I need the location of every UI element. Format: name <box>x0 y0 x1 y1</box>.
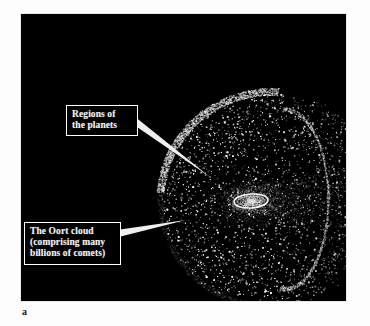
callout-oort-line-3: billions of comets) <box>30 248 115 259</box>
callout-planets-line-1: Regions of <box>72 109 132 120</box>
panel-letter: a <box>22 306 27 317</box>
astronomy-plate: Regions of the planets The Oort cloud (c… <box>21 14 346 301</box>
figure-root: Regions of the planets The Oort cloud (c… <box>0 0 370 326</box>
callout-the-oort-cloud: The Oort cloud (comprising many billions… <box>24 222 121 265</box>
callout-oort-line-1: The Oort cloud <box>30 226 115 237</box>
callout-planets-line-2: the planets <box>72 120 132 131</box>
callout-oort-line-2: (comprising many <box>30 237 115 248</box>
callout-regions-of-the-planets: Regions of the planets <box>66 105 138 136</box>
